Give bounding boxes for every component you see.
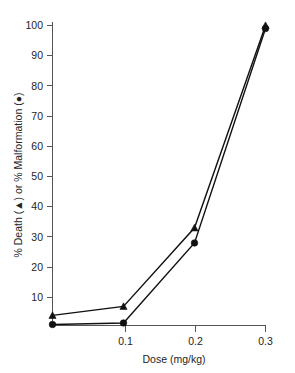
malformation-marker-dose-0.3: [262, 25, 269, 32]
malformation-marker-dose-0: [49, 321, 56, 328]
y-tick-label-100: 100: [25, 19, 43, 31]
malformation-series-line: [53, 29, 266, 325]
chart-figure: 100 90 80 70 60 50 40 30 20 10 0.1 0.2 0…: [0, 0, 295, 373]
x-tick-label-0.1: 0.1: [118, 335, 133, 347]
y-tick-label-10: 10: [31, 291, 43, 303]
y-tick-label-70: 70: [31, 110, 43, 122]
y-tick-label-90: 90: [31, 49, 43, 61]
y-axis-title: % Death (▲) or % Malformation (●): [12, 93, 24, 258]
x-tick-label-0.2: 0.2: [188, 335, 203, 347]
y-tick-label-30: 30: [31, 231, 43, 243]
y-tick-label-40: 40: [31, 200, 43, 212]
malformation-marker-dose-0.2: [191, 240, 198, 247]
x-axis-title: Dose (mg/kg): [142, 353, 205, 365]
death-marker-dose-0.2: [191, 224, 198, 231]
y-tick-label-80: 80: [31, 80, 43, 92]
dose-response-line-chart: 100 90 80 70 60 50 40 30 20 10 0.1 0.2 0…: [0, 0, 295, 373]
y-tick-label-20: 20: [31, 261, 43, 273]
death-series-line: [53, 26, 266, 316]
y-tick-label-50: 50: [31, 170, 43, 182]
y-tick-label-60: 60: [31, 140, 43, 152]
x-tick-label-0.3: 0.3: [258, 335, 273, 347]
malformation-marker-dose-0.1: [120, 320, 127, 327]
